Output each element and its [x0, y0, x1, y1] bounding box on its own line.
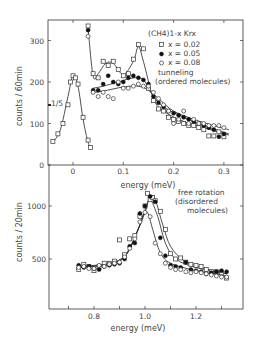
bottom-panel: 5001000 0.81.01.2 counts / 20min energy …: [15, 165, 243, 333]
top-x-ticks: 00.10.20.3: [71, 20, 230, 176]
legend-title: (CH4)1-x Krx: [148, 29, 197, 38]
annotation-tunneling: tunneling: [158, 68, 194, 77]
bottom-annotation: free rotation (disordered molecules): [175, 188, 228, 215]
bottom-x-ticks: 0.81.01.2: [69, 306, 222, 321]
legend: (CH4)1-x Krx x = 0.02 x = 0.05 x = 0.08 …: [148, 29, 231, 86]
top-plot-frame: [48, 20, 243, 165]
annotation-molecules: molecules): [187, 206, 228, 215]
annotation-free-rotation: free rotation: [178, 188, 225, 197]
annotation-disordered: (disordered: [175, 197, 218, 206]
svg-text:0.3: 0.3: [218, 167, 230, 176]
svg-text:500: 500: [32, 255, 47, 264]
legend-entry-1: x = 0.02: [168, 40, 200, 49]
top-panel: 0100200300 00.10.20.3 counts / 60min ene…: [15, 20, 243, 190]
svg-text:0: 0: [71, 167, 76, 176]
top-y-axis-label: counts / 60min: [15, 66, 24, 126]
svg-text:300: 300: [30, 37, 45, 46]
bottom-x-axis-label: energy (meV): [111, 324, 166, 333]
svg-text:1.0: 1.0: [139, 312, 151, 321]
svg-text:1/5: 1/5: [51, 99, 63, 108]
annotation-ordered: (ordered molecules): [155, 77, 231, 86]
svg-text:200: 200: [30, 78, 45, 87]
svg-text:1.2: 1.2: [190, 312, 202, 321]
legend-entry-3: x = 0.08: [168, 58, 200, 67]
svg-text:1000: 1000: [27, 202, 46, 211]
bottom-y-axis-label: counts / 20min: [15, 202, 24, 262]
scale-annotation: 1/5: [48, 99, 63, 108]
svg-text:0.2: 0.2: [168, 167, 180, 176]
legend-entry-2: x = 0.05: [168, 49, 200, 58]
svg-text:0.1: 0.1: [117, 167, 129, 176]
figure: 0100200300 00.10.20.3 counts / 60min ene…: [0, 0, 253, 349]
svg-text:100: 100: [30, 120, 45, 129]
svg-text:0.8: 0.8: [88, 312, 100, 321]
top-x-axis-label: energy (meV): [121, 181, 176, 190]
svg-text:0: 0: [39, 161, 44, 170]
